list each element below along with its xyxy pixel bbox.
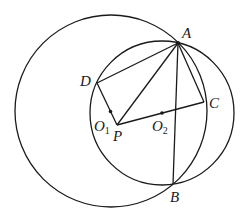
label-O2: O2 — [152, 118, 168, 136]
label-O1-main: O — [94, 118, 105, 134]
label-A: A — [181, 25, 192, 41]
point-O2-dot — [160, 111, 164, 115]
point-O1-dot — [109, 110, 113, 114]
label-O1-sub: 1 — [105, 125, 110, 136]
geometry-diagram: A B C D P O1 O2 — [0, 0, 245, 219]
label-O2-main: O — [152, 118, 163, 134]
label-P: P — [112, 128, 122, 144]
point-A-dot — [176, 41, 180, 45]
segment-AD — [97, 43, 178, 83]
segment-AB — [173, 43, 178, 184]
label-D: D — [79, 73, 91, 89]
label-O1: O1 — [94, 118, 110, 136]
label-B: B — [170, 189, 179, 205]
label-C: C — [209, 95, 220, 111]
segment-PA — [117, 43, 178, 125]
label-O2-sub: 2 — [163, 125, 168, 136]
